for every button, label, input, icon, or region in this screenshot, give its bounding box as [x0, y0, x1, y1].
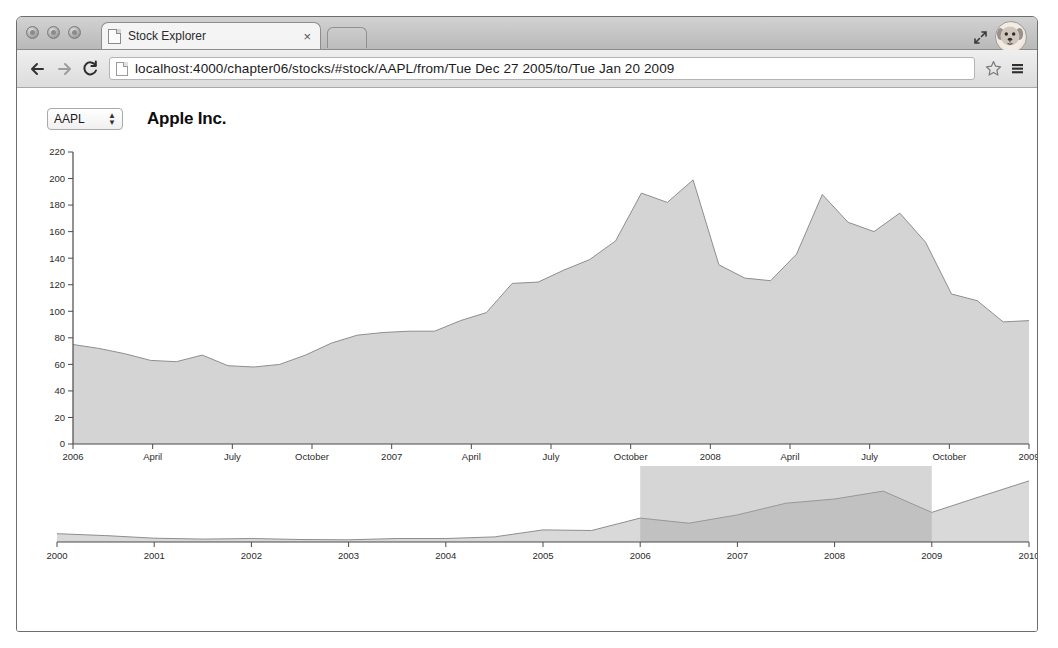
context-chart[interactable]: 2000200120022003200420052006200720082009…	[46, 466, 1037, 561]
svg-text:220: 220	[49, 146, 65, 157]
page-content: AAPL ▲▼ Apple Inc. 020406080100120140160…	[17, 88, 1037, 632]
svg-text:2006: 2006	[630, 550, 651, 561]
svg-text:160: 160	[49, 226, 65, 237]
svg-text:July: July	[543, 451, 560, 462]
svg-text:October: October	[295, 451, 329, 462]
main-chart[interactable]: 020406080100120140160180200220 2006April…	[49, 146, 1037, 462]
svg-text:20: 20	[54, 412, 65, 423]
stock-chart-svg[interactable]: 020406080100120140160180200220 2006April…	[17, 146, 1037, 626]
svg-text:180: 180	[49, 199, 65, 210]
svg-text:2000: 2000	[46, 550, 67, 561]
svg-text:October: October	[932, 451, 966, 462]
svg-text:2003: 2003	[338, 550, 359, 561]
expand-arrows-icon[interactable]	[972, 29, 989, 46]
ticker-select-value: AAPL	[54, 112, 85, 126]
svg-text:April: April	[780, 451, 799, 462]
svg-text:2002: 2002	[241, 550, 262, 561]
svg-text:April: April	[143, 451, 162, 462]
svg-text:2008: 2008	[700, 451, 721, 462]
main-chart-x-axis: 2006AprilJulyOctober2007AprilJulyOctober…	[62, 444, 1037, 462]
minimize-window-button[interactable]	[47, 26, 60, 39]
reload-icon[interactable]	[77, 56, 103, 82]
browser-toolbar: localhost:4000/chapter06/stocks/#stock/A…	[17, 50, 1037, 88]
app-header: AAPL ▲▼ Apple Inc.	[47, 108, 226, 130]
window-actions	[972, 21, 1027, 53]
svg-text:100: 100	[49, 306, 65, 317]
url-text: localhost:4000/chapter06/stocks/#stock/A…	[135, 61, 674, 76]
svg-text:2005: 2005	[532, 550, 553, 561]
brush-selection[interactable]	[640, 466, 932, 542]
context-chart-x-axis: 2000200120022003200420052006200720082009…	[46, 542, 1037, 561]
hamburger-menu-icon[interactable]	[1005, 57, 1029, 81]
svg-text:2009: 2009	[921, 550, 942, 561]
forward-icon[interactable]	[51, 56, 77, 82]
close-window-button[interactable]	[26, 26, 39, 39]
browser-window: Stock Explorer ×	[16, 16, 1038, 632]
main-chart-y-axis: 020406080100120140160180200220	[49, 146, 73, 449]
new-tab-button[interactable]	[327, 27, 367, 48]
svg-text:40: 40	[54, 385, 65, 396]
charts-container: 020406080100120140160180200220 2006April…	[17, 146, 1037, 630]
svg-text:2009: 2009	[1018, 451, 1037, 462]
avatar[interactable]	[995, 21, 1027, 53]
browser-tabstrip: Stock Explorer ×	[17, 17, 1037, 50]
screenshot-root: Stock Explorer ×	[0, 0, 1058, 648]
tab-title: Stock Explorer	[128, 29, 300, 43]
ticker-select[interactable]: AAPL ▲▼	[47, 108, 123, 130]
svg-text:2008: 2008	[824, 550, 845, 561]
svg-text:October: October	[614, 451, 648, 462]
svg-text:2010: 2010	[1018, 550, 1037, 561]
svg-text:200: 200	[49, 173, 65, 184]
svg-text:2004: 2004	[435, 550, 456, 561]
close-icon[interactable]: ×	[300, 30, 314, 43]
address-bar[interactable]: localhost:4000/chapter06/stocks/#stock/A…	[109, 57, 975, 80]
main-chart-area	[73, 180, 1029, 444]
page-icon	[116, 62, 128, 76]
svg-text:2006: 2006	[62, 451, 83, 462]
svg-text:2007: 2007	[727, 550, 748, 561]
back-icon[interactable]	[25, 56, 51, 82]
window-controls	[26, 26, 81, 39]
page-icon	[108, 29, 121, 44]
svg-text:60: 60	[54, 359, 65, 370]
svg-text:0: 0	[60, 438, 65, 449]
svg-text:120: 120	[49, 279, 65, 290]
svg-text:July: July	[861, 451, 878, 462]
chevron-updown-icon: ▲▼	[108, 112, 116, 126]
svg-text:140: 140	[49, 253, 65, 264]
svg-text:2007: 2007	[381, 451, 402, 462]
svg-text:80: 80	[54, 332, 65, 343]
tab-stock-explorer[interactable]: Stock Explorer ×	[101, 22, 321, 49]
svg-text:2001: 2001	[144, 550, 165, 561]
page-title: Apple Inc.	[147, 109, 226, 129]
svg-text:July: July	[224, 451, 241, 462]
bookmark-star-icon[interactable]	[981, 57, 1005, 81]
maximize-window-button[interactable]	[68, 26, 81, 39]
svg-text:April: April	[462, 451, 481, 462]
